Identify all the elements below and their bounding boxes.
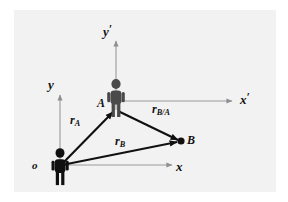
label-vector-r-b-over-a: rB/A — [152, 103, 170, 117]
figure-canvas: y′ x′ y x o A B rA rB rB/A — [0, 0, 288, 202]
label-point-a: A — [97, 97, 105, 109]
label-origin: o — [32, 160, 38, 171]
primed-axes-group — [116, 41, 232, 110]
point-b-dot — [177, 137, 184, 144]
observer-o-figure — [52, 148, 69, 185]
label-point-b: B — [187, 134, 195, 146]
observer-a-figure — [107, 79, 125, 117]
label-y-axis: y — [48, 78, 54, 91]
label-x-prime-axis: x′ — [240, 92, 250, 106]
label-y-prime-axis: y′ — [103, 24, 112, 38]
label-vector-r-b: rB — [115, 135, 125, 149]
label-vector-r-a: rA — [70, 114, 80, 128]
label-x-axis: x — [176, 160, 183, 173]
